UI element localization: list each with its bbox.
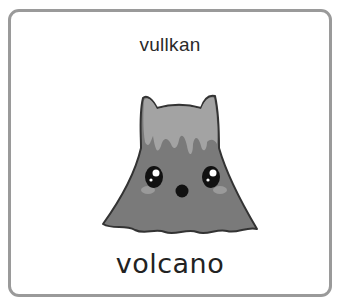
volcano-character-icon xyxy=(91,84,271,244)
foreign-word: vullkan xyxy=(11,34,329,56)
english-word: volcano xyxy=(11,248,329,279)
flashcard: vullkan volcano xyxy=(8,9,332,297)
